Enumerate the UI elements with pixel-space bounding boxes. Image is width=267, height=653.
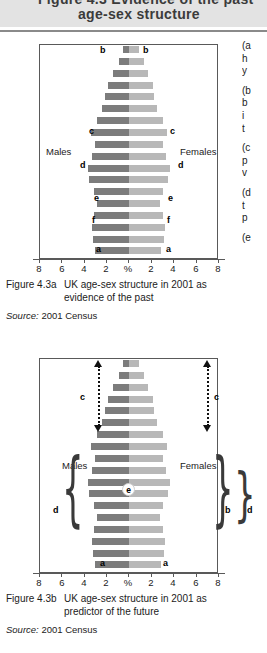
bar-male-35–39 <box>88 165 129 172</box>
mark-a-a-right: a <box>166 244 171 254</box>
bar-female-30–34 <box>129 490 168 497</box>
source-a-label: Source: <box>6 310 39 321</box>
mark-a-c-right: c <box>170 126 175 136</box>
axis-x-label-a-7: 6 <box>189 263 203 274</box>
bar-male-50–54 <box>91 129 129 136</box>
brace-d-left: { <box>62 446 84 528</box>
bar-female-40–44 <box>129 153 166 160</box>
axis-x-label-a-4: % <box>121 263 135 274</box>
bar-female-10–14 <box>129 538 165 545</box>
bar-female-5–9 <box>129 550 164 557</box>
bar-female-25–29 <box>129 188 163 195</box>
mark-b-e-circled: e <box>122 483 135 496</box>
axis-x-label-a-2: 4 <box>77 263 91 274</box>
mark-b-b-right: b <box>225 505 231 515</box>
right-fragment-c: (c p v <box>242 142 267 180</box>
bar-male-60–64 <box>102 105 129 112</box>
bar-female-65–69 <box>129 407 154 414</box>
axis-x-label-b-2: 4 <box>77 577 91 588</box>
bar-female-75–79 <box>129 70 148 77</box>
bar-female-45–49 <box>129 455 163 462</box>
bar-male-20–24 <box>97 200 129 207</box>
caption-a: Figure 4.3a UK age-sex structure in 2001… <box>6 278 236 306</box>
mark-a-c-left: c <box>89 126 94 136</box>
mark-b-c-left: c <box>80 392 85 402</box>
bar-male-65–69 <box>105 407 129 414</box>
bar-female-15–19 <box>129 212 163 219</box>
bar-male-75–79 <box>113 70 129 77</box>
axis-x-label-a-1: 6 <box>55 263 69 274</box>
bar-female-40–44 <box>129 467 166 474</box>
bar-male-70–74 <box>108 396 129 403</box>
arrow-head-down-icon <box>203 425 211 432</box>
mark-b-c-right: c <box>214 392 219 402</box>
mark-a-b-left: b <box>100 45 106 55</box>
bar-female-55–59 <box>129 117 163 124</box>
bar-female-10–14 <box>129 224 165 231</box>
bar-female-85+ <box>129 46 139 53</box>
mark-a-d-right: d <box>178 160 184 170</box>
bar-female-50–54 <box>129 129 167 136</box>
bar-female-30–34 <box>129 176 168 183</box>
mark-a-e-right: e <box>168 193 173 203</box>
right-fragment-d: (d t p <box>242 187 267 225</box>
bar-female-15–19 <box>129 526 163 533</box>
bar-female-60–64 <box>129 105 157 112</box>
bar-male-45–49 <box>95 455 129 462</box>
mark-a-d-left: d <box>80 160 86 170</box>
axis-x-label-b-6: 4 <box>166 577 180 588</box>
source-b-label: Source: <box>6 624 39 635</box>
bar-female-80–84 <box>129 372 144 379</box>
bar-male-15–19 <box>94 526 129 533</box>
mark-a-f-right: f <box>167 215 170 225</box>
axis-x-label-a-5: 2 <box>144 263 158 274</box>
brace-b-right: } <box>212 446 234 528</box>
bar-female-0–4 <box>129 247 161 254</box>
bar-male-50–54 <box>91 443 129 450</box>
mark-a-b-right: b <box>143 45 149 55</box>
bar-male-20–24 <box>97 514 129 521</box>
source-b-value: 2001 Census <box>41 624 97 635</box>
bar-male-80–84 <box>119 372 129 379</box>
bar-male-10–14 <box>92 224 129 231</box>
bar-female-80–84 <box>129 58 144 65</box>
bar-male-80–84 <box>119 58 129 65</box>
bar-female-65–69 <box>129 93 154 100</box>
bar-female-50–54 <box>129 443 167 450</box>
mark-b-a-right: a <box>163 558 168 568</box>
bar-female-20–24 <box>129 200 160 207</box>
bar-male-75–79 <box>113 384 129 391</box>
bar-female-85+ <box>129 360 139 367</box>
axis-x-label-b-5: 2 <box>144 577 158 588</box>
bar-male-5–9 <box>93 236 129 243</box>
caption-a-text: UK age-sex structure in 2001 as evidence… <box>64 278 224 304</box>
bar-female-35–39 <box>129 165 170 172</box>
bar-female-35–39 <box>129 479 170 486</box>
axis-x-label-a-8: 8 <box>211 263 225 274</box>
mark-b-e-label: e <box>126 485 131 495</box>
page-header: Figure 4.3 Evidence of the past age-sex … <box>0 0 267 27</box>
bar-male-55–59 <box>97 117 129 124</box>
arrow-stem <box>207 366 209 426</box>
bar-male-40–44 <box>92 153 129 160</box>
females-label-a: Females <box>180 146 216 157</box>
mark-b-d-left: d <box>53 505 59 515</box>
mark-a-a-left: a <box>96 244 101 254</box>
bar-male-70–74 <box>108 82 129 89</box>
caption-b-number: Figure 4.3b <box>6 592 57 605</box>
bar-male-10–14 <box>92 538 129 545</box>
mark-b-a-left: a <box>100 558 105 568</box>
axis-x-label-b-8: 8 <box>211 577 225 588</box>
mark-a-e-left: e <box>94 193 99 203</box>
bar-female-20–24 <box>129 514 160 521</box>
brace-d-right: } <box>234 466 256 524</box>
axis-x-label-b-4: % <box>121 577 135 588</box>
axis-x-label-a-6: 4 <box>166 263 180 274</box>
bar-female-45–49 <box>129 141 163 148</box>
source-a-value: 2001 Census <box>41 310 97 321</box>
bar-female-70–74 <box>129 396 153 403</box>
bar-male-40–44 <box>92 467 129 474</box>
source-a: Source: 2001 Census <box>6 310 97 321</box>
caption-a-number: Figure 4.3a <box>6 278 57 291</box>
right-fragment-b: (b b i t <box>242 85 267 135</box>
